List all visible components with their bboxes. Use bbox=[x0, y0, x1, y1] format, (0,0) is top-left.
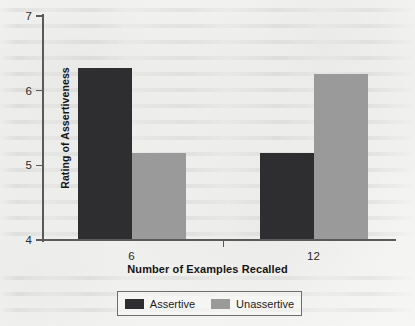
chart-legend: AssertiveUnassertive bbox=[117, 291, 302, 316]
x-axis-tick-label: 6 bbox=[128, 250, 134, 262]
bar bbox=[260, 153, 314, 240]
legend-label: Unassertive bbox=[236, 298, 294, 310]
y-axis-tick: 7 bbox=[36, 15, 43, 16]
plot-area bbox=[42, 16, 394, 240]
x-axis-title: Number of Examples Recalled bbox=[0, 263, 415, 275]
legend-item: Unassertive bbox=[211, 298, 294, 310]
x-axis-line bbox=[42, 239, 396, 241]
legend-item: Assertive bbox=[125, 298, 195, 310]
bar bbox=[78, 68, 132, 240]
bar bbox=[132, 153, 186, 240]
y-axis-title: Rating of Assertiveness bbox=[59, 67, 71, 189]
bar-chart-figure: 4567 612 Rating of Assertiveness Number … bbox=[0, 0, 415, 326]
legend-swatch bbox=[211, 299, 230, 309]
y-axis-tick-label: 5 bbox=[26, 159, 32, 171]
legend-label: Assertive bbox=[150, 298, 195, 310]
y-axis-tick: 5 bbox=[36, 165, 43, 166]
y-axis-tick-label: 4 bbox=[26, 234, 32, 246]
y-axis-tick-label: 6 bbox=[26, 85, 32, 97]
x-axis-tick bbox=[223, 240, 224, 247]
x-axis-tick-label: 12 bbox=[307, 250, 320, 262]
y-axis-tick-label: 7 bbox=[26, 10, 32, 22]
legend-swatch bbox=[125, 299, 144, 309]
y-axis-tick: 6 bbox=[36, 90, 43, 91]
bar bbox=[314, 74, 368, 240]
y-axis-tick: 4 bbox=[36, 239, 43, 240]
y-axis-line bbox=[42, 14, 44, 242]
